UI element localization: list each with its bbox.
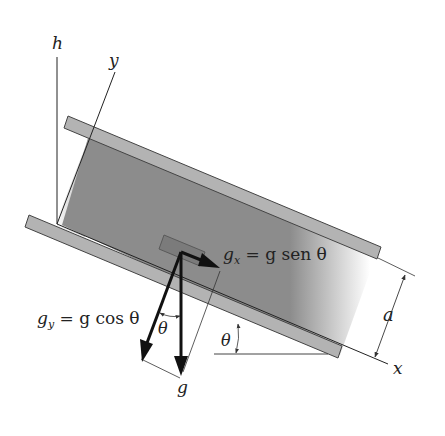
g-arrowhead xyxy=(174,356,188,376)
label-x: x xyxy=(393,358,403,378)
dimension-extension-line xyxy=(378,258,415,276)
gy-arrowhead xyxy=(140,339,153,362)
label-theta-incline: θ xyxy=(221,331,231,350)
gy-equation: gy = g cos θ xyxy=(37,308,140,331)
label-a: a xyxy=(383,304,394,325)
theta-incline-arc xyxy=(236,324,239,353)
inclined-plates-diagram: h y x a g θ θ gx = g sen θ gy = g cos θ xyxy=(0,0,445,436)
theta-vector-arc xyxy=(160,313,180,317)
label-theta-vector: θ xyxy=(158,319,168,338)
gx-symbol: g xyxy=(223,244,234,264)
gy-symbol: g xyxy=(37,308,48,328)
label-y: y xyxy=(108,50,119,70)
label-h: h xyxy=(52,33,63,53)
construction-line xyxy=(141,359,180,378)
gy-rhs: = g cos θ xyxy=(54,308,139,328)
gx-rhs: = g sen θ xyxy=(240,244,327,264)
label-g: g xyxy=(177,377,188,397)
